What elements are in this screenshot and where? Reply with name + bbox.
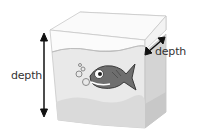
aquarium-tank-icon — [0, 0, 197, 135]
depth-label-width: depth — [155, 45, 186, 58]
fish-tank-diagram: depth depth — [0, 0, 197, 135]
depth-label-height: depth — [11, 69, 42, 82]
